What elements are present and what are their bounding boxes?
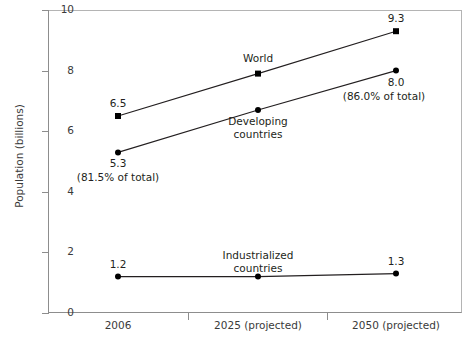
y-axis-tick-label: 2 — [34, 245, 74, 257]
y-axis-tick-label: 8 — [34, 64, 74, 76]
x-axis-tick-label: 2050 (projected) — [352, 319, 440, 331]
y-axis-tick-label: 6 — [34, 124, 74, 136]
data-point-value-label: 6.5 — [110, 97, 127, 109]
data-point-share-label: (81.5% of total) — [77, 171, 159, 183]
y-axis-tick-label: 4 — [34, 185, 74, 197]
x-axis-tick-label: 2006 — [105, 319, 132, 331]
y-axis-tick-label: 10 — [34, 3, 74, 15]
data-point-value-label: 9.3 — [388, 12, 405, 24]
data-point-value-label: 1.3 — [388, 255, 405, 267]
data-point-value-label: 1.2 — [110, 258, 127, 270]
series-label-world: World — [243, 52, 273, 65]
population-projection-line-chart: Population (billions) 0246810 20062025 (… — [0, 0, 469, 339]
data-point-value-label: 8.0 — [388, 76, 405, 88]
data-point-share-label: (86.0% of total) — [343, 90, 425, 102]
series-label-developing-countries: Developing countries — [228, 115, 287, 140]
data-point-value-label: 5.3 — [110, 157, 127, 169]
y-axis-tick-label: 0 — [34, 306, 74, 318]
series-label-industrialized-countries: Industrialized countries — [223, 249, 294, 274]
x-axis-tick-label: 2025 (projected) — [214, 319, 302, 331]
y-axis-title: Population (billions) — [13, 81, 25, 231]
x-axis-tick — [188, 313, 189, 320]
x-axis-tick — [327, 313, 328, 320]
